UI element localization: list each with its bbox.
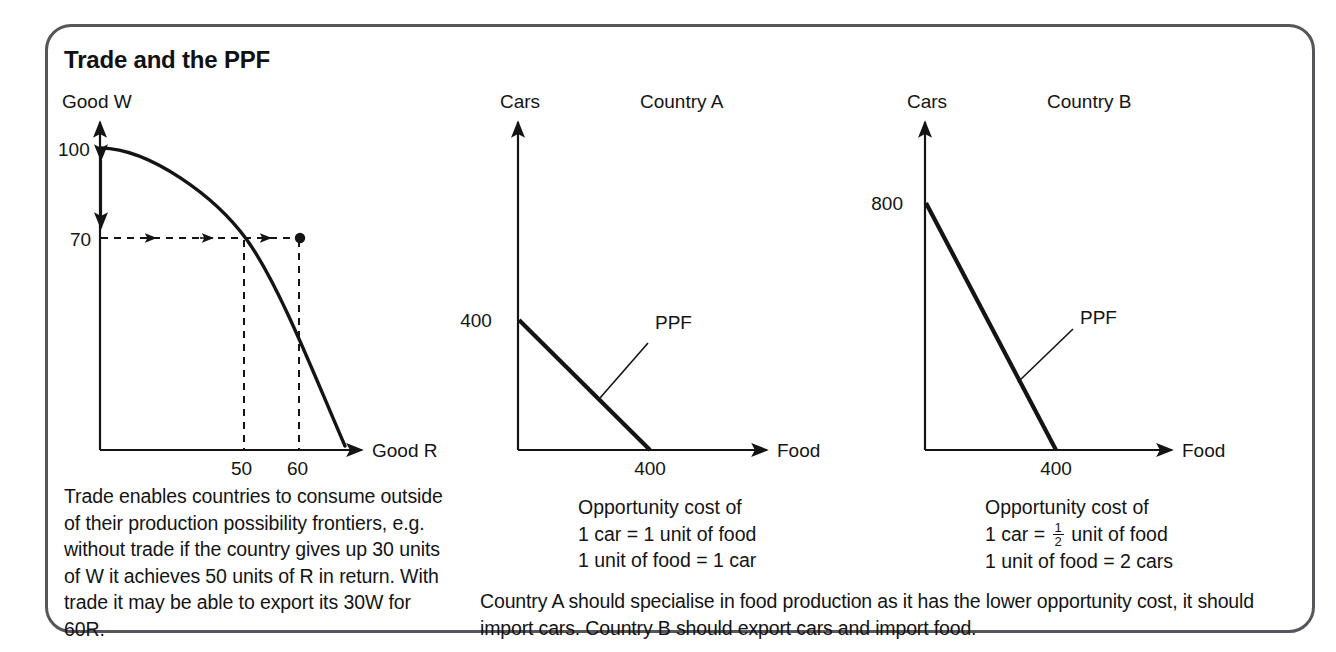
country-b-ppf-line xyxy=(926,203,1056,450)
country-b-cost-heading: Opportunity cost of xyxy=(985,494,1285,521)
left-x-axis-label: Good R xyxy=(372,440,437,461)
left-explanation-paragraph: Trade enables countries to consume outsi… xyxy=(64,483,456,642)
country-b-xtick: 400 xyxy=(1040,458,1072,479)
country-a-series-label: PPF xyxy=(655,312,692,333)
country-a-ppf-callout-leader xyxy=(600,343,648,398)
country-a-cost-line-1: 1 car = 1 unit of food xyxy=(578,521,878,548)
fraction-numerator: 1 xyxy=(1053,521,1064,535)
country-a-xtick: 400 xyxy=(634,458,666,479)
country-b-cost-line-1: 1 car = 1 2 unit of food xyxy=(985,521,1285,549)
left-ppf-chart: Good W Good R 100 70 50 60 xyxy=(58,91,437,479)
country-b-y-axis-label: Cars xyxy=(907,91,947,112)
figure-root: Trade and the PPF xyxy=(0,0,1336,652)
left-y-axis-label: Good W xyxy=(62,91,132,112)
country-a-cost-heading: Opportunity cost of xyxy=(578,494,878,521)
one-half-fraction: 1 2 xyxy=(1053,521,1064,549)
consumption-point-dot xyxy=(295,233,305,243)
country-a-y-axis-label: Cars xyxy=(500,91,540,112)
country-a-opportunity-cost: Opportunity cost of 1 car = 1 unit of fo… xyxy=(578,494,878,574)
conclusion-paragraph: Country A should specialise in food prod… xyxy=(480,588,1300,642)
country-a-ppf-line xyxy=(519,320,650,450)
country-b-cost-line-1-post: unit of food xyxy=(1071,523,1168,545)
country-b-cost-line-1-pre: 1 car = xyxy=(985,523,1045,545)
left-xtick-60: 60 xyxy=(287,458,308,479)
left-ytick-70: 70 xyxy=(70,229,91,250)
country-a-ytick: 400 xyxy=(460,310,492,331)
country-a-x-axis-label: Food xyxy=(777,440,820,461)
country-b-cost-line-2: 1 unit of food = 2 cars xyxy=(985,548,1285,575)
country-a-title: Country A xyxy=(640,91,724,112)
country-b-ppf-callout-leader xyxy=(1018,329,1073,382)
country-b-series-label: PPF xyxy=(1080,307,1117,328)
country-b-x-axis-label: Food xyxy=(1182,440,1225,461)
left-xtick-50: 50 xyxy=(231,458,252,479)
country-b-ytick: 800 xyxy=(871,193,903,214)
left-ppf-curve xyxy=(101,148,345,446)
country-a-cost-line-2: 1 unit of food = 1 car xyxy=(578,547,878,574)
country-b-title: Country B xyxy=(1047,91,1131,112)
country-b-opportunity-cost: Opportunity cost of 1 car = 1 2 unit of … xyxy=(985,494,1285,575)
country-b-chart: Cars Country B Food 800 400 PPF xyxy=(871,91,1225,479)
left-ytick-100: 100 xyxy=(58,139,90,160)
country-a-chart: Cars Country A Food 400 400 PPF xyxy=(460,91,820,479)
fraction-denominator: 2 xyxy=(1053,535,1064,548)
